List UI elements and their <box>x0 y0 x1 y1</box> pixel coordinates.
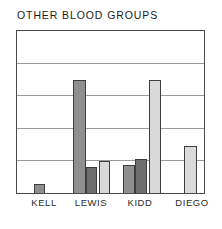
bar-diego-series-3 <box>184 146 197 193</box>
chart-title: OTHER BLOOD GROUPS <box>17 9 158 21</box>
chart-container: OTHER BLOOD GROUPS KELLLEWISKIDDDIEGO <box>0 0 222 229</box>
bar-kidd-series-1 <box>123 165 135 193</box>
bar-lewis-series-3 <box>99 161 110 193</box>
bars-layer <box>17 31 204 193</box>
x-tick-label-kidd: KIDD <box>128 197 153 208</box>
bar-lewis-series-1 <box>73 80 86 193</box>
x-axis-labels: KELLLEWISKIDDDIEGO <box>16 197 205 213</box>
plot-area <box>16 30 205 194</box>
bar-kidd-series-2 <box>135 159 147 193</box>
x-tick-label-kell: KELL <box>31 197 56 208</box>
bar-kidd-series-3 <box>149 80 161 193</box>
x-tick-label-diego: DIEGO <box>175 197 208 208</box>
x-tick-label-lewis: LEWIS <box>75 197 107 208</box>
bar-kell-series-1 <box>34 184 45 193</box>
bar-lewis-series-2 <box>86 167 97 193</box>
